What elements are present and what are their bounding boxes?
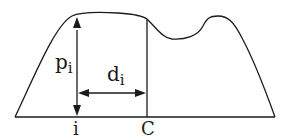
c-tick-label: C	[141, 120, 155, 138]
p-arrow-head-top	[73, 17, 81, 28]
d-label: di	[107, 64, 125, 84]
d-symbol: d	[107, 62, 120, 86]
p-arrow-head-bottom	[73, 105, 81, 116]
p-subscript: i	[68, 59, 73, 77]
d-subscript: i	[120, 71, 125, 89]
d-arrow-head-right	[135, 89, 146, 97]
i-tick-label: i	[73, 120, 79, 138]
d-arrow-head-left	[78, 89, 89, 97]
p-label: pi	[55, 52, 73, 72]
p-symbol: p	[55, 50, 68, 74]
profile-curve	[15, 12, 275, 117]
